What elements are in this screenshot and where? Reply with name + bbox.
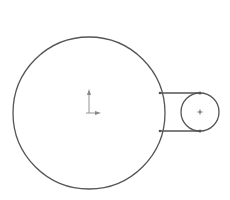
endpoint-top-right[interactable] xyxy=(199,92,202,95)
endpoint-bottom-left[interactable] xyxy=(159,130,162,133)
canvas-background xyxy=(0,0,230,200)
endpoint-top-left[interactable] xyxy=(159,92,162,95)
sketch-canvas[interactable] xyxy=(0,0,230,200)
endpoint-bottom-right[interactable] xyxy=(199,130,202,133)
